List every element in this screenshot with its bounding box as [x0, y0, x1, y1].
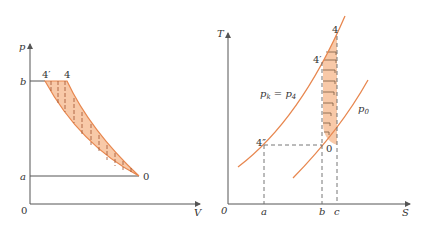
pv-x-axis-label: V	[194, 207, 203, 218]
ts-point-4dblprime: 4″	[256, 137, 266, 148]
ts-isobar-high-label: pk = p4	[260, 88, 296, 101]
ts-tick-a: a	[261, 206, 267, 217]
ts-y-axis-label: T	[217, 28, 225, 39]
pv-y-axis-label: p	[19, 41, 26, 52]
ts-point-4: 4	[332, 24, 338, 35]
ts-x-axis-label: S	[402, 207, 409, 218]
pv-tick-b: b	[20, 76, 26, 87]
ts-diagram: T S 0 a b c 4 4′ 4″ 0 pk = p4 p0	[217, 16, 410, 218]
pv-diagram: p V 0 b a 4′ 4 0	[19, 41, 203, 218]
pv-origin-label: 0	[21, 205, 27, 216]
diagram-canvas: p V 0 b a 4′ 4 0	[0, 0, 431, 229]
pv-point-4: 4	[64, 69, 70, 80]
ts-shaded-area	[323, 33, 337, 145]
ts-isobar-low-label: p0	[358, 103, 369, 116]
ts-point-0: 0	[326, 143, 332, 154]
ts-tick-c: c	[334, 206, 340, 217]
ts-tick-b: b	[319, 206, 325, 217]
ts-point-4prime: 4′	[313, 54, 322, 65]
ts-origin-label: 0	[221, 205, 228, 216]
pv-tick-a: a	[20, 171, 26, 182]
pv-shaded-area	[45, 81, 139, 176]
pv-point-4prime: 4′	[42, 69, 51, 80]
pv-point-0: 0	[143, 171, 149, 182]
